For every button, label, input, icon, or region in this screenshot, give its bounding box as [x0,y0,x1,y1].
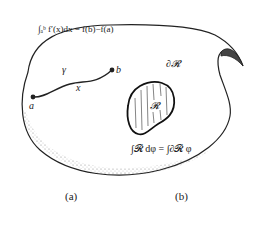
curve-gamma-label: γ [62,64,66,75]
fundamental-theorem-formula: ∫ₐᵇ f′(x)dx = f(b)−f(a) [38,24,114,34]
point-a-label: a [29,100,34,111]
point-b [110,68,115,73]
point-b-label: b [116,64,121,75]
caption-a: (a) [65,190,77,202]
variable-x-label: x [76,82,80,93]
boundary-label: ∂𝓡 [166,58,180,70]
region-r-label: 𝓡 [150,100,159,112]
curve-gamma [33,70,112,97]
point-a [31,95,36,100]
caption-b: (b) [175,190,188,202]
stokes-theorem-formula: ∫𝓡 dφ = ∫∂𝓡 φ [131,143,192,155]
